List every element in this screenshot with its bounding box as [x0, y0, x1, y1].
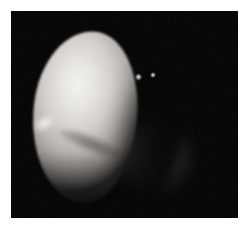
planetary-disk [21, 25, 151, 215]
page-bottom-margin [0, 218, 247, 231]
page-canvas [0, 0, 247, 231]
lower-limb-shadow [21, 153, 153, 218]
astronomical-image-frame [11, 11, 238, 218]
point-light-2-icon [150, 72, 156, 78]
point-light-1-icon [135, 73, 142, 81]
